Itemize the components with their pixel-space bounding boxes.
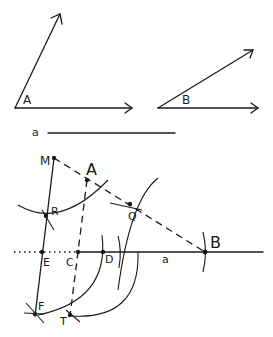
label-e: E bbox=[43, 256, 50, 269]
point-q bbox=[128, 202, 132, 206]
point-f bbox=[33, 312, 37, 316]
label-segment-a: a bbox=[162, 253, 169, 266]
label-m: M bbox=[40, 154, 50, 168]
point-r bbox=[44, 214, 48, 218]
angle-a-label: A bbox=[23, 93, 32, 107]
label-t: T bbox=[59, 315, 67, 328]
label-d: D bbox=[105, 253, 113, 266]
label-q: Q bbox=[128, 210, 137, 223]
label-c: C bbox=[66, 256, 74, 269]
label-a: A bbox=[86, 160, 97, 179]
label-f: F bbox=[38, 300, 44, 313]
given-segment-a: a bbox=[32, 126, 175, 139]
segment-a-label: a bbox=[32, 126, 39, 139]
point-e bbox=[40, 250, 44, 254]
triangle-construction-diagram: A B a bbox=[0, 0, 273, 337]
angle-b-label: B bbox=[182, 93, 190, 107]
given-angle-b: B bbox=[158, 50, 258, 113]
point-b bbox=[203, 250, 208, 255]
construction: M A R Q E C D B F T a bbox=[14, 154, 263, 328]
label-b: B bbox=[210, 233, 221, 252]
label-r: R bbox=[51, 205, 59, 218]
given-angle-a: A bbox=[15, 14, 132, 113]
point-t bbox=[68, 313, 72, 317]
point-m bbox=[52, 156, 56, 160]
point-c bbox=[76, 250, 80, 254]
